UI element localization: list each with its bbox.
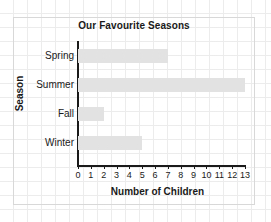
x-tick-8 xyxy=(181,165,182,169)
bar-spring xyxy=(78,49,168,63)
y-axis-label-summer: Summer xyxy=(4,78,74,92)
x-tick-3 xyxy=(117,165,118,169)
bar-fall xyxy=(78,107,104,121)
x-tick-6 xyxy=(155,165,156,169)
x-tick-label-13: 13 xyxy=(235,170,255,180)
x-tick-10 xyxy=(206,165,207,169)
x-tick-13 xyxy=(245,165,246,169)
bar-winter xyxy=(78,136,142,150)
chart-title: Our Favourite Seasons xyxy=(13,20,255,31)
x-axis-title: Number of Children xyxy=(60,186,255,197)
bar-summer xyxy=(78,78,245,92)
x-tick-12 xyxy=(232,165,233,169)
x-axis-line xyxy=(77,165,246,167)
y-axis-label-spring: Spring xyxy=(4,49,74,63)
x-tick-9 xyxy=(194,165,195,169)
x-tick-1 xyxy=(91,165,92,169)
x-tick-7 xyxy=(168,165,169,169)
x-tick-0 xyxy=(78,165,79,169)
x-tick-5 xyxy=(142,165,143,169)
x-tick-4 xyxy=(129,165,130,169)
y-axis-label-fall: Fall xyxy=(4,107,74,121)
plot-area xyxy=(78,43,245,165)
x-tick-2 xyxy=(104,165,105,169)
y-axis-label-winter: Winter xyxy=(4,136,74,150)
bar-chart-screenshot: Our Favourite Seasons Season SpringSumme… xyxy=(0,0,271,222)
x-tick-11 xyxy=(219,165,220,169)
